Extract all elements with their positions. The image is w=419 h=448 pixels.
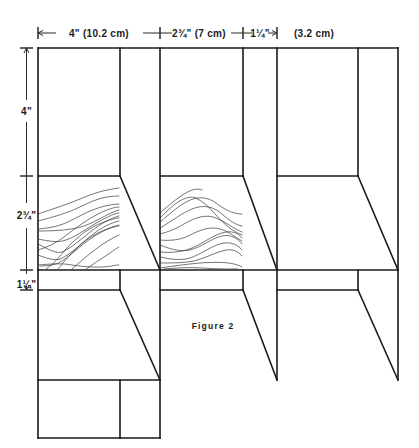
- texture-region-middle: [160, 189, 242, 269]
- vertical-dimension-group: 4" 2¾" 1¼": [17, 48, 37, 290]
- texture-stroke-m8: [160, 250, 242, 263]
- dimension-label-horizontal-4: (3.2 cm): [294, 28, 334, 39]
- r1-a-diagonal: [120, 176, 160, 270]
- r1-b-diagonal: [243, 176, 277, 270]
- r1-c-diagonal: [358, 176, 398, 270]
- pattern-figure: 4" (10.2 cm) 2¾" (7 cm) 1¼" (3.2 cm) 4" …: [0, 0, 419, 448]
- dimension-label-vertical-3: 1¼": [17, 279, 37, 290]
- dimension-label-vertical-2: 2¾": [17, 210, 37, 221]
- texture-stroke-l11: [72, 235, 119, 269]
- r2-d-diagonal: [120, 290, 160, 380]
- dimension-label-vertical-1: 4": [21, 106, 32, 117]
- texture-stroke-m10: [164, 268, 238, 269]
- pattern-diagram-svg: 4" (10.2 cm) 2¾" (7 cm) 1¼" (3.2 cm) 4" …: [0, 0, 419, 448]
- dimension-label-horizontal-1: 4" (10.2 cm): [69, 28, 129, 39]
- texture-stroke-m2: [160, 198, 242, 222]
- texture-stroke-l14: [38, 207, 119, 250]
- horizontal-dimension-group: 4" (10.2 cm) 2¾" (7 cm) 1¼" (3.2 cm): [38, 27, 334, 39]
- pattern-outline-group: [38, 48, 398, 438]
- texture-stroke-m4: [160, 216, 242, 234]
- figure-caption: Figure 2: [192, 321, 235, 331]
- dimension-label-horizontal-3: 1¼": [250, 28, 270, 39]
- dimension-label-horizontal-2: 2¾" (7 cm): [172, 28, 226, 39]
- r2-f-diagonal: [358, 290, 398, 380]
- r2-e-diagonal: [243, 290, 277, 380]
- texture-stroke-m1: [160, 189, 202, 213]
- texture-region-left: [38, 188, 119, 269]
- texture-stroke-l7: [38, 221, 119, 260]
